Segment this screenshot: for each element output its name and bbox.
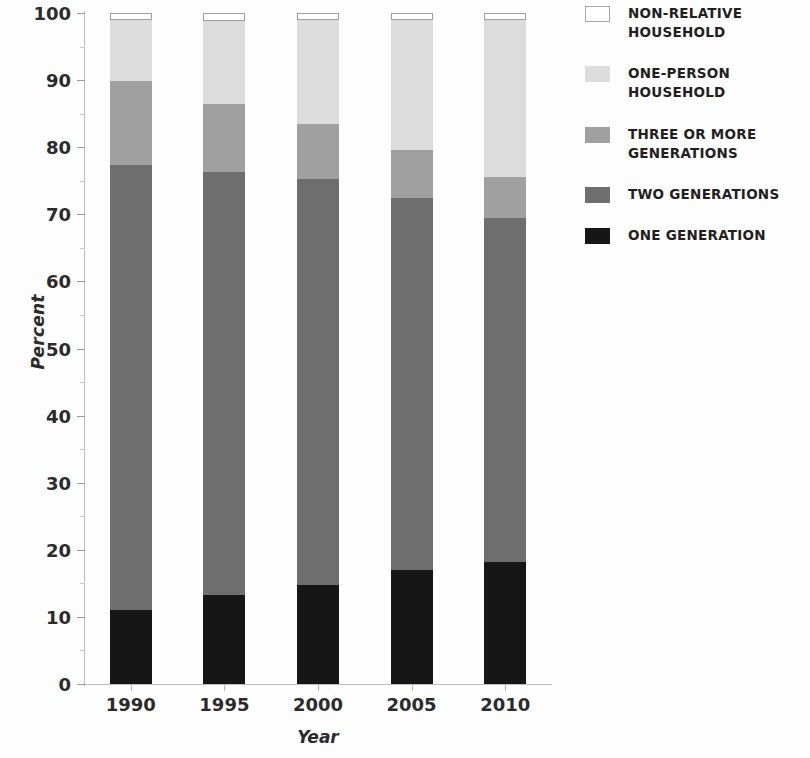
- y-axis-tick-label: 30: [46, 472, 71, 493]
- legend-item[interactable]: THREE OR MORE GENERATIONS: [585, 125, 807, 163]
- bar-segment[interactable]: [203, 104, 245, 172]
- legend-item[interactable]: NON-RELATIVE HOUSEHOLD: [585, 4, 807, 42]
- bar-segment[interactable]: [203, 595, 245, 684]
- x-axis-tick: [131, 684, 132, 691]
- bar-segment[interactable]: [391, 13, 433, 20]
- bar-2005[interactable]: [391, 13, 433, 684]
- bar-segment[interactable]: [484, 13, 526, 20]
- legend-swatch-icon: [585, 6, 610, 22]
- plot-area: 0102030405060708090100: [84, 13, 552, 684]
- x-axis-title: Year: [84, 727, 552, 747]
- y-axis-tick-label: 10: [46, 606, 71, 627]
- x-axis-tick: [224, 684, 225, 691]
- legend-label: THREE OR MORE GENERATIONS: [628, 125, 800, 163]
- chart-figure: Percent 0102030405060708090100 199019952…: [0, 0, 810, 758]
- y-axis-tick-label: 0: [58, 674, 71, 695]
- y-axis-tick-label: 70: [46, 204, 71, 225]
- legend-swatch-icon: [585, 127, 610, 143]
- legend-item[interactable]: ONE GENERATION: [585, 226, 807, 245]
- bar-segment[interactable]: [110, 20, 152, 80]
- x-axis-tick: [412, 684, 413, 691]
- bar-segment[interactable]: [110, 81, 152, 166]
- x-axis-tick: [318, 684, 319, 691]
- y-axis-tick-label: 50: [46, 338, 71, 359]
- bar-2000[interactable]: [297, 13, 339, 684]
- bar-segment[interactable]: [203, 172, 245, 595]
- bar-group: [84, 13, 552, 684]
- legend-swatch-icon: [585, 228, 610, 244]
- bar-segment[interactable]: [110, 13, 152, 20]
- legend-label: NON-RELATIVE HOUSEHOLD: [628, 4, 800, 42]
- legend-label: ONE GENERATION: [628, 226, 766, 245]
- legend-item[interactable]: TWO GENERATIONS: [585, 185, 807, 204]
- legend-item[interactable]: ONE-PERSON HOUSEHOLD: [585, 64, 807, 102]
- y-axis-tick-label: 60: [46, 271, 71, 292]
- y-axis-tick-label: 20: [46, 539, 71, 560]
- bar-segment[interactable]: [484, 20, 526, 176]
- bar-1995[interactable]: [203, 13, 245, 684]
- x-axis-tick-label-2010: 2010: [445, 694, 565, 715]
- legend-label: TWO GENERATIONS: [628, 185, 779, 204]
- x-axis-tick: [505, 684, 506, 691]
- bar-segment[interactable]: [110, 610, 152, 684]
- y-axis-tick-label: 100: [33, 3, 71, 24]
- bar-segment[interactable]: [391, 150, 433, 198]
- bar-segment[interactable]: [297, 13, 339, 20]
- bar-segment[interactable]: [297, 585, 339, 684]
- legend-label: ONE-PERSON HOUSEHOLD: [628, 64, 800, 102]
- bar-segment[interactable]: [297, 179, 339, 584]
- bar-segment[interactable]: [203, 13, 245, 21]
- bar-segment[interactable]: [391, 20, 433, 150]
- bar-segment[interactable]: [297, 20, 339, 123]
- bar-segment[interactable]: [110, 165, 152, 609]
- bar-segment[interactable]: [203, 21, 245, 104]
- bar-segment[interactable]: [391, 570, 433, 684]
- bar-segment[interactable]: [484, 562, 526, 684]
- bar-2010[interactable]: [484, 13, 526, 684]
- chart-legend: NON-RELATIVE HOUSEHOLDONE-PERSON HOUSEHO…: [585, 4, 807, 267]
- bar-segment[interactable]: [297, 124, 339, 180]
- bar-segment[interactable]: [484, 177, 526, 218]
- y-axis-tick-label: 90: [46, 70, 71, 91]
- y-axis-tick-label: 40: [46, 405, 71, 426]
- legend-swatch-icon: [585, 187, 610, 203]
- y-axis-tick-label: 80: [46, 137, 71, 158]
- bar-segment[interactable]: [484, 218, 526, 562]
- bar-1990[interactable]: [110, 13, 152, 684]
- legend-swatch-icon: [585, 66, 610, 82]
- y-axis-tick: [77, 684, 85, 685]
- bar-segment[interactable]: [391, 198, 433, 570]
